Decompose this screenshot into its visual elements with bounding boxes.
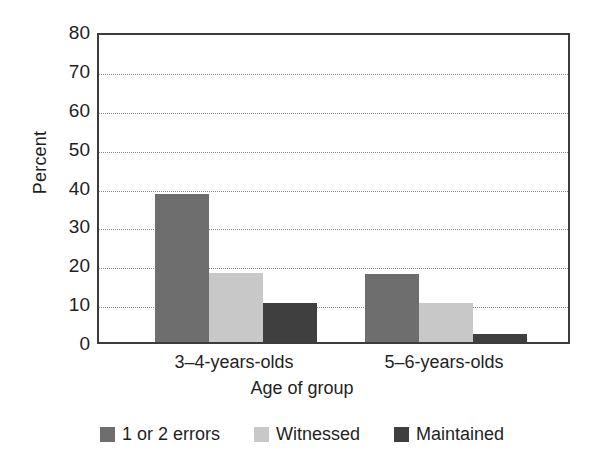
legend-swatch-icon <box>254 427 269 442</box>
x-axis-title: Age of group <box>0 378 604 399</box>
plot-area <box>97 33 570 344</box>
y-axis-tick-labels: 01020304050607080 <box>42 0 90 476</box>
bar <box>155 194 209 342</box>
bar <box>365 274 419 342</box>
y-axis-tick-label: 30 <box>44 217 90 236</box>
gridline <box>99 74 568 75</box>
legend-item: Maintained <box>394 424 504 445</box>
x-axis-tick-label: 3–4-years-olds <box>124 352 344 373</box>
bar <box>263 303 317 342</box>
x-axis-tick-label: 5–6-years-olds <box>334 352 554 373</box>
legend-label: Witnessed <box>276 424 360 445</box>
y-axis-tick-label: 10 <box>44 295 90 314</box>
legend-swatch-icon <box>100 427 115 442</box>
bar <box>473 334 527 342</box>
bar <box>209 273 263 342</box>
y-axis-tick-label: 80 <box>44 23 90 42</box>
y-axis-tick-label: 0 <box>44 334 90 353</box>
legend-label: 1 or 2 errors <box>122 424 220 445</box>
gridline <box>99 152 568 153</box>
y-axis-tick-label: 20 <box>44 256 90 275</box>
y-axis-tick-label: 50 <box>44 140 90 159</box>
y-axis-tick-label: 70 <box>44 62 90 81</box>
bar <box>419 303 473 342</box>
gridline <box>99 113 568 114</box>
chart-legend: 1 or 2 errorsWitnessedMaintained <box>0 424 604 445</box>
legend-swatch-icon <box>394 427 409 442</box>
y-axis-tick-label: 40 <box>44 179 90 198</box>
legend-item: 1 or 2 errors <box>100 424 220 445</box>
legend-label: Maintained <box>416 424 504 445</box>
plot-inner <box>99 35 568 342</box>
gridline <box>99 191 568 192</box>
y-axis-tick-label: 60 <box>44 101 90 120</box>
bar-chart-figure: Percent 01020304050607080 3–4-years-olds… <box>0 0 604 476</box>
legend-item: Witnessed <box>254 424 360 445</box>
